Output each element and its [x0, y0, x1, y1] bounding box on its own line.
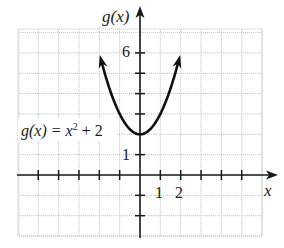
function-label-rhs: + 2	[78, 122, 103, 139]
y-tick-label-1: 1	[122, 146, 130, 163]
x-axis-label: x	[263, 181, 272, 200]
y-tick-label-6: 6	[122, 43, 130, 60]
function-label: g(x) = x2 + 2	[18, 119, 116, 141]
function-label-lhs: g(x) = x	[21, 122, 73, 140]
x-tick-label-1: 1	[155, 184, 163, 201]
function-graph: g(x) x 6 1 1 2 g(x) = x2 + 2	[0, 0, 284, 248]
y-axis-label: g(x)	[102, 7, 130, 26]
svg-text:g(x) = x2 + 2: g(x) = x2 + 2	[21, 121, 103, 140]
x-tick-label-2: 2	[175, 184, 183, 201]
